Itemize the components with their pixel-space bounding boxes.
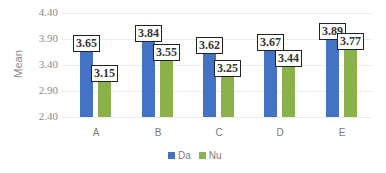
legend-swatch-icon [199,152,206,159]
legend: DaNu [168,150,222,161]
bar-nu-d [282,63,295,117]
x-tick-label: B [143,127,173,138]
y-tick-label: 3.90 [20,32,58,44]
bar-chart: Mean4.403.903.402.902.403.653.15A3.843.5… [0,0,386,173]
y-tick-label: 2.40 [20,110,58,122]
bar-nu-b [160,57,173,117]
data-label: 3.84 [135,25,162,42]
data-label: 3.55 [153,44,180,61]
data-label: 3.15 [91,65,118,82]
bar-da-e [326,40,339,117]
x-tick-label: C [204,127,234,138]
bar-da-a [80,52,93,117]
legend-item: Nu [199,150,222,161]
legend-item: Da [168,150,191,161]
data-label: 3.44 [275,50,302,67]
data-label: 3.65 [73,35,100,52]
data-label: 3.25 [214,60,241,77]
x-tick-label: E [327,127,357,138]
x-tick-label: A [81,127,111,138]
y-tick-label: 3.40 [20,58,58,70]
y-tick-label: 2.90 [20,84,58,96]
bar-nu-c [221,73,234,117]
data-label: 3.62 [196,37,223,54]
bar-nu-a [98,78,111,117]
data-label: 3.77 [337,33,364,50]
legend-swatch-icon [168,152,175,159]
y-tick-label: 4.40 [20,6,58,18]
x-tick-label: D [265,127,295,138]
bar-nu-e [344,46,357,117]
gridline [62,13,372,14]
data-label: 3.67 [257,34,284,51]
gridline [62,117,372,118]
